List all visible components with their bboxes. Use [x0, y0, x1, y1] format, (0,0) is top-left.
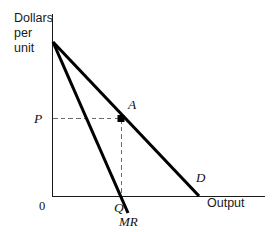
price-axis-label: P	[33, 111, 42, 126]
marginal-revenue-curve-label: MR	[118, 214, 138, 229]
point-a-label: A	[127, 97, 137, 112]
monopoly-diagram-figure: Dollars per unit Output 0 P Q A D MR	[0, 0, 278, 232]
demand-curve	[53, 42, 199, 196]
x-axis-title: Output	[207, 196, 245, 210]
y-axis-title-line-1: Dollars	[14, 11, 53, 25]
quantity-axis-label: Q	[114, 200, 124, 215]
marginal-revenue-curve	[53, 42, 128, 213]
chart-canvas: Dollars per unit Output 0 P Q A D MR	[0, 0, 278, 232]
point-a-marker	[118, 115, 125, 122]
demand-curve-label: D	[195, 170, 206, 185]
origin-label: 0	[39, 199, 45, 213]
y-axis-title-line-2: per	[14, 26, 32, 40]
y-axis-title-line-3: unit	[14, 41, 35, 55]
